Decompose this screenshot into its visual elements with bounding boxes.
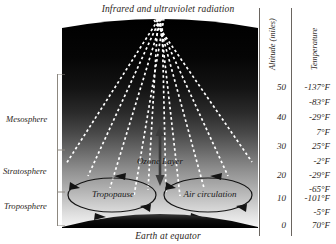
layer-label-stratosphere: Stratosphere — [3, 166, 47, 176]
temperature-tick: -2°F — [313, 156, 330, 166]
altitude-scale: 50 40 30 20 10 0 — [258, 0, 290, 244]
altitude-tick: 30 — [277, 141, 286, 151]
layer-label-mesosphere: Mesosphere — [6, 114, 47, 124]
ozone-layer-label: Ozone Layer — [62, 156, 258, 166]
altitude-tick: 0 — [282, 220, 287, 230]
bottom-caption: Earth at equator — [0, 231, 336, 241]
layer-bracket — [52, 74, 66, 226]
temperature-tick: -83°F — [309, 97, 330, 107]
temperature-tick: -29°F — [309, 112, 330, 122]
altitude-tick: 50 — [277, 82, 286, 92]
temperature-tick: 25°F — [312, 141, 330, 151]
atmosphere-panel: Ozone Layer Tropopause Air circulation — [62, 16, 258, 228]
altitude-tick: 20 — [277, 170, 286, 180]
temperature-tick: -101°F — [304, 193, 330, 203]
tropopause-label: Tropopause — [76, 189, 150, 199]
temperature-tick: -137°F — [304, 82, 330, 92]
altitude-tick: 10 — [277, 193, 286, 203]
altitude-tick: 40 — [277, 112, 286, 122]
temperature-tick: -29°F — [309, 170, 330, 180]
temperature-tick: 7°F — [316, 127, 330, 137]
temperature-tick: -5°F — [313, 207, 330, 217]
atmosphere-diagram: Infrared and ultraviolet radiation — [0, 0, 336, 244]
air-circulation-label: Air circulation — [170, 189, 250, 199]
layer-label-troposphere: Troposphere — [4, 201, 47, 211]
temperature-tick: 70°F — [312, 220, 330, 230]
temperature-scale: -137°F -83°F -29°F 7°F 25°F -2°F -29°F -… — [292, 0, 334, 244]
